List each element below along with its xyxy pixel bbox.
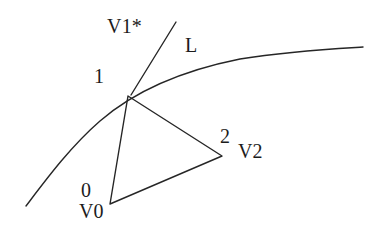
label-node-1: 1 [94,66,104,86]
label-node-0: 0 [81,180,91,200]
label-line-l: L [185,35,197,55]
label-vertex-v0: V0 [79,201,103,221]
diagram-canvas: V1* L 1 2 V2 0 V0 [0,0,381,243]
label-node-2: 2 [220,126,230,146]
label-vertex-v2: V2 [238,141,262,161]
triangle-path [110,96,222,204]
label-v1-star: V1* [107,16,142,36]
curve-l-path [26,47,363,206]
